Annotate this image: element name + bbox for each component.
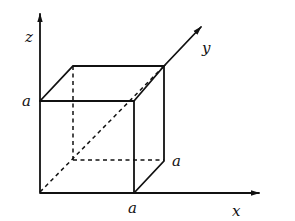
cube-right-face	[134, 66, 164, 193]
y-axis	[164, 27, 201, 66]
y-axis-hidden	[40, 66, 164, 192]
x-edge-label: a	[128, 199, 137, 217]
cube-front-face	[40, 101, 134, 193]
z-edge-label: a	[22, 92, 31, 110]
cube-top-face	[40, 66, 164, 101]
x-axis-label: x	[232, 202, 241, 220]
cube-diagram: z y x a a a	[0, 0, 295, 221]
z-axis-label: z	[24, 28, 33, 46]
y-axis-label: y	[201, 39, 211, 57]
y-edge-label: a	[172, 152, 181, 170]
